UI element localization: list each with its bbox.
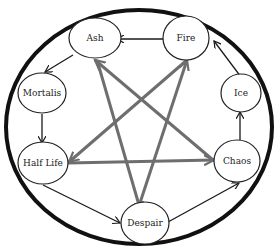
node-label-despair: Despair	[127, 218, 163, 228]
edge-half-life-to-chaos	[68, 160, 214, 163]
node-ash: Ash	[69, 18, 121, 58]
node-label-chaos: Chaos	[223, 156, 251, 166]
node-despair: Despair	[121, 202, 169, 244]
node-label-fire: Fire	[177, 33, 196, 43]
node-half-life: Half Life	[18, 142, 68, 184]
pentagram-edges	[68, 60, 214, 212]
edge-ash-to-mortalis	[45, 55, 73, 72]
node-label-mortalis: Mortalis	[23, 88, 62, 98]
diagram-canvas: Ash Fire Ice Chaos Despair Half Life Mor…	[0, 0, 278, 252]
node-mortalis: Mortalis	[18, 73, 66, 113]
node-ice: Ice	[221, 74, 261, 112]
edge-ash-to-despair	[97, 60, 141, 212]
node-fire: Fire	[163, 16, 209, 60]
node-chaos: Chaos	[214, 140, 260, 182]
node-label-ice: Ice	[234, 88, 248, 98]
node-label-ash: Ash	[86, 33, 104, 43]
node-label-half-life: Half Life	[23, 158, 63, 168]
